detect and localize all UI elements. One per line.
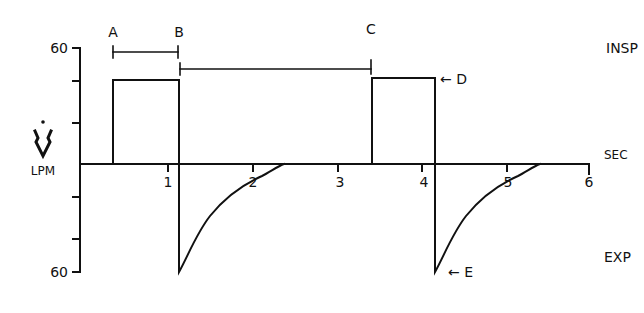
x-tick-1: 1 bbox=[164, 174, 173, 190]
label-b: B bbox=[174, 24, 184, 40]
flow-symbol bbox=[35, 120, 51, 156]
flow-waveform bbox=[113, 78, 540, 272]
x-tick-3: 3 bbox=[336, 174, 345, 190]
x-unit-label: SEC bbox=[604, 148, 628, 162]
label-d: ← D bbox=[440, 71, 467, 87]
label-a: A bbox=[108, 24, 118, 40]
y-top-label: 60 bbox=[50, 40, 68, 56]
flow-time-diagram: 60 60 LPM 1 2 3 4 5 6 SEC INSP EXP A B C… bbox=[0, 0, 644, 313]
x-axis bbox=[80, 164, 589, 174]
label-e: ← E bbox=[448, 264, 473, 280]
y-bottom-label: 60 bbox=[50, 264, 68, 280]
label-c: C bbox=[366, 21, 376, 37]
x-tick-4: 4 bbox=[420, 174, 429, 190]
exp-label: EXP bbox=[604, 249, 631, 265]
insp-label: INSP bbox=[606, 40, 638, 56]
x-tick-6: 6 bbox=[585, 174, 594, 190]
bracket-a-b bbox=[113, 46, 178, 58]
y-unit-label: LPM bbox=[31, 164, 55, 178]
y-axis bbox=[73, 48, 80, 272]
bracket-b-c bbox=[180, 60, 371, 75]
